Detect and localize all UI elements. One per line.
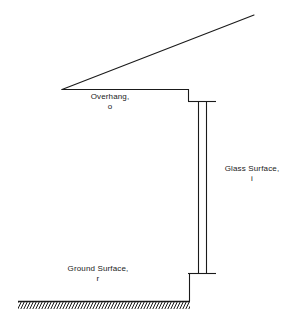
glass-surface-assembly (188, 102, 216, 274)
glass-surface-label-subscript: i (206, 174, 298, 184)
overhang-label: Overhang, o (62, 92, 158, 112)
glass-surface-label: Glass Surface, i (206, 164, 298, 184)
ground-surface-assembly (18, 302, 190, 310)
ground-surface-label-subscript: r (38, 274, 158, 284)
roof-slope-line (62, 15, 254, 90)
ground-surface-label: Ground Surface, r (38, 264, 158, 284)
overhang-roof-wedge (62, 15, 254, 90)
diagram-canvas: Overhang, o Glass Surface, i Ground Surf… (0, 0, 300, 329)
glass-surface-label-text: Glass Surface, (225, 164, 280, 173)
overhang-label-subscript: o (62, 102, 158, 112)
ground-surface-label-text: Ground Surface, (68, 264, 129, 273)
overhang-label-text: Overhang, (91, 92, 130, 101)
ground-hatching (18, 302, 190, 309)
